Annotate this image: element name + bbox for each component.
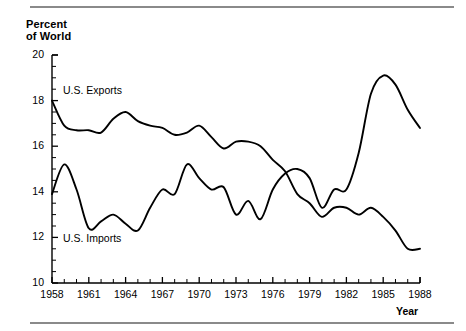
y-tick-label: 20 [22,48,44,60]
x-tick-label: 1970 [182,288,216,300]
x-tick-label: 1985 [366,288,400,300]
x-tick-label: 1973 [219,288,253,300]
x-axis-ticks [52,277,420,283]
x-tick-label: 1976 [256,288,290,300]
x-tick-label: 1982 [329,288,363,300]
x-tick-label: 1958 [35,288,69,300]
y-tick-label: 10 [22,276,44,288]
x-tick-label: 1967 [145,288,179,300]
y-tick-label: 12 [22,230,44,242]
y-tick-label: 18 [22,94,44,106]
chart-figure: Percent of World Year U.S. Exports U.S. … [0,0,466,331]
x-tick-label: 1979 [293,288,327,300]
y-tick-label: 16 [22,139,44,151]
chart-plot-area [0,0,466,331]
line-series-imports [52,75,420,231]
x-tick-label: 1964 [109,288,143,300]
y-tick-label: 14 [22,185,44,197]
x-tick-label: 1988 [403,288,437,300]
x-tick-label: 1961 [72,288,106,300]
y-axis-ticks [52,55,58,283]
chart-axes [52,55,420,283]
